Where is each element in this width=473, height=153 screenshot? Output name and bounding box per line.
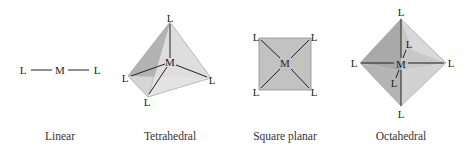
ligand-label: L	[391, 77, 398, 89]
ligand-label: L	[448, 57, 455, 69]
ligand-label: L	[20, 64, 27, 76]
metal-label: M	[55, 64, 65, 76]
ligand-label: L	[253, 86, 260, 98]
square-planar-geometry: L L M L L Square planar	[253, 31, 318, 143]
ligand-label: L	[122, 72, 129, 84]
ligand-label: L	[311, 31, 318, 43]
tetra-face-bottom	[128, 76, 211, 97]
geometry-caption: Linear	[45, 130, 75, 142]
ligand-label: L	[144, 96, 151, 108]
tetrahedral-geometry: L M L L L Tetrahedral	[122, 12, 216, 142]
metal-label: M	[280, 57, 290, 69]
coordination-geometries-figure: L M L Linear L M L L L Tetrahedral L L	[0, 0, 473, 153]
linear-geometry: L M L Linear	[20, 64, 101, 142]
ligand-label: L	[253, 31, 260, 43]
octahedral-geometry: L L L M L L L Octahedral	[351, 6, 455, 142]
ligand-label: L	[398, 108, 405, 120]
metal-label: M	[396, 58, 406, 70]
ligand-label: L	[311, 86, 318, 98]
metal-label: M	[165, 56, 175, 68]
ligand-label: L	[406, 38, 413, 50]
geometry-caption: Tetrahedral	[144, 130, 196, 142]
ligand-label: L	[167, 12, 174, 24]
geometry-caption: Square planar	[253, 130, 317, 143]
ligand-label: L	[209, 74, 216, 86]
ligand-label: L	[398, 6, 405, 18]
geometry-caption: Octahedral	[376, 130, 426, 142]
ligand-label: L	[94, 64, 101, 76]
ligand-label: L	[351, 57, 358, 69]
